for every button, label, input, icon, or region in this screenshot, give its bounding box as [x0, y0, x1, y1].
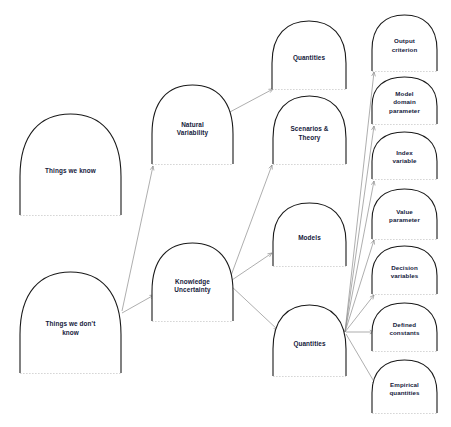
edge-arrowhead: [267, 253, 272, 257]
node-output-criterion[interactable]: Outputcriterion: [372, 15, 437, 71]
edge-knowledge-to-scenarios: [229, 165, 272, 281]
node-label: Decision: [391, 264, 418, 271]
edge-line: [229, 165, 272, 281]
node-label: Models: [298, 234, 321, 241]
edge-knowledge-to-models: [229, 253, 272, 282]
node-label: quantities: [389, 389, 420, 396]
node-label: Quantities: [293, 340, 326, 348]
diagram-canvas: Things we knowThings we don'tknowNatural…: [0, 0, 451, 427]
node-label: variables: [391, 272, 419, 279]
edge-quantities-to-output: [345, 72, 375, 332]
node-label: Empirical: [390, 381, 419, 388]
edge-line: [122, 295, 154, 313]
node-label: Variability: [177, 129, 209, 137]
node-quantities-bottom[interactable]: Quantities: [273, 305, 346, 376]
node-label: Defined: [393, 321, 417, 328]
node-quantities-top[interactable]: Quantities: [272, 21, 346, 89]
node-label: variable: [392, 157, 417, 164]
diagram-svg: Things we knowThings we don'tknowNatural…: [0, 0, 451, 427]
edge-dontknow-to-natural: [122, 166, 154, 311]
node-label: Scenarios &: [290, 125, 328, 132]
node-things-we-dont-know[interactable]: Things we don'tknow: [20, 272, 121, 373]
node-label: domain: [393, 98, 416, 105]
node-knowledge-uncertainty[interactable]: KnowledgeUncertainty: [152, 243, 233, 321]
node-label: Uncertainty: [174, 286, 211, 294]
node-defined-constants[interactable]: Definedconstants: [372, 303, 437, 351]
edge-line: [229, 253, 272, 282]
edge-natural-to-quantities: [228, 89, 273, 113]
node-scenarios-theory[interactable]: Scenarios &Theory: [273, 96, 346, 164]
edge-dontknow-to-knowledge: [122, 295, 154, 313]
node-natural-variability[interactable]: NaturalVariability: [152, 85, 233, 164]
node-label: Value: [396, 208, 413, 215]
edge-line: [228, 89, 273, 113]
node-empirical-quantities[interactable]: Empiricalquantities: [372, 360, 437, 413]
node-value-parameter[interactable]: Valueparameter: [372, 189, 437, 239]
node-label: constants: [389, 329, 420, 336]
node-index-variable[interactable]: Indexvariable: [372, 132, 437, 179]
node-label: criterion: [392, 46, 418, 53]
node-label: know: [62, 329, 79, 336]
edge-line: [230, 285, 278, 330]
node-label: Natural: [181, 121, 204, 128]
nodes-layer: Things we knowThings we don'tknowNatural…: [20, 15, 437, 413]
node-model-domain-parameter[interactable]: Modeldomainparameter: [372, 77, 437, 124]
edge-knowledge-to-quantities: [230, 285, 278, 330]
node-label: Output: [394, 37, 415, 44]
node-label: Things we know: [45, 167, 96, 175]
edge-line: [122, 166, 153, 311]
node-label: parameter: [389, 107, 420, 114]
edge-line: [345, 240, 374, 332]
node-label: Quantities: [293, 54, 326, 62]
node-label: Knowledge: [175, 278, 210, 286]
node-label: Things we don't: [46, 320, 97, 328]
node-label: Theory: [299, 134, 321, 142]
edge-quantities-to-modeldomain: [345, 126, 375, 332]
edge-quantities-to-defined: [346, 330, 374, 334]
node-decision-variables[interactable]: Decisionvariables: [372, 246, 437, 294]
node-label: Index: [396, 149, 413, 156]
node-label: parameter: [389, 216, 420, 223]
node-things-we-know[interactable]: Things we know: [20, 114, 121, 215]
node-models[interactable]: Models: [273, 203, 346, 266]
node-arch-shape: [20, 114, 121, 215]
edge-quantities-to-index: [345, 181, 375, 332]
node-label: Model: [395, 90, 414, 97]
